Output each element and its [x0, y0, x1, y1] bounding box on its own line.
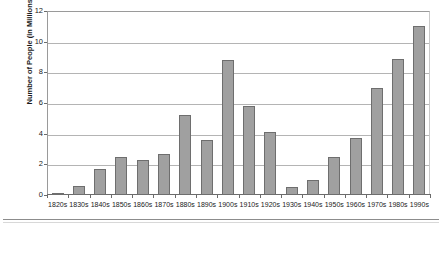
bar-1980s[interactable] [392, 59, 404, 195]
bar-1940s[interactable] [307, 180, 319, 195]
x-tick-mark [153, 194, 154, 198]
x-tick-label-1990s: 1990s [409, 201, 430, 208]
x-tick-mark [387, 194, 388, 198]
x-tick-label-1870s: 1870s [153, 201, 174, 208]
x-tick-mark [430, 194, 431, 198]
bar-slot [387, 11, 408, 195]
x-tick-label-1940s: 1940s [302, 201, 323, 208]
bar-1970s[interactable] [371, 88, 383, 195]
bar-slot [153, 11, 174, 195]
bar-1960s[interactable] [350, 138, 362, 195]
x-tick-mark [217, 194, 218, 198]
bar-slot [68, 11, 89, 195]
x-tick-mark [239, 194, 240, 198]
x-tick-mark [302, 194, 303, 198]
x-tick-mark [281, 194, 282, 198]
bars-layer [47, 11, 430, 195]
y-tick-label-4: 4 [23, 130, 43, 137]
x-tick-label-1880s: 1880s [175, 201, 196, 208]
bar-1890s[interactable] [201, 140, 213, 195]
x-tick-label-1960s: 1960s [345, 201, 366, 208]
x-tick-mark [366, 194, 367, 198]
bottom-divider [3, 219, 439, 223]
bar-slot [366, 11, 387, 195]
x-tick-label-1850s: 1850s [111, 201, 132, 208]
x-axis-ticks [47, 194, 430, 200]
x-tick-label-1950s: 1950s [324, 201, 345, 208]
x-tick-mark [324, 194, 325, 198]
x-tick-mark [409, 194, 410, 198]
x-tick-mark [345, 194, 346, 198]
bar-slot [90, 11, 111, 195]
bar-1880s[interactable] [179, 115, 191, 195]
x-tick-label-1900s: 1900s [217, 201, 238, 208]
bar-slot [281, 11, 302, 195]
x-tick-mark [260, 194, 261, 198]
bar-chart: 024681012 Number of People (in Millions)… [0, 0, 442, 254]
x-tick-label-1830s: 1830s [68, 201, 89, 208]
bar-slot [345, 11, 366, 195]
x-tick-mark [90, 194, 91, 198]
x-tick-label-1860s: 1860s [132, 201, 153, 208]
bar-slot [217, 11, 238, 195]
x-tick-mark [68, 194, 69, 198]
bar-slot [175, 11, 196, 195]
bar-1920s[interactable] [264, 132, 276, 195]
bar-1860s[interactable] [137, 160, 149, 195]
bar-slot [302, 11, 323, 195]
x-tick-mark [47, 194, 48, 198]
x-tick-label-1920s: 1920s [260, 201, 281, 208]
bar-slot [196, 11, 217, 195]
x-tick-label-1930s: 1930s [281, 201, 302, 208]
bar-1850s[interactable] [115, 157, 127, 195]
x-tick-mark [175, 194, 176, 198]
y-tick-label-0: 0 [23, 191, 43, 198]
x-axis-labels: 1820s1830s1840s1850s1860s1870s1880s1890s… [47, 201, 430, 213]
bar-slot [111, 11, 132, 195]
bar-slot [260, 11, 281, 195]
bar-slot [132, 11, 153, 195]
bar-1900s[interactable] [222, 60, 234, 195]
x-tick-label-1970s: 1970s [366, 201, 387, 208]
bar-1870s[interactable] [158, 154, 170, 195]
x-tick-label-1910s: 1910s [239, 201, 260, 208]
x-tick-label-1890s: 1890s [196, 201, 217, 208]
x-tick-mark [196, 194, 197, 198]
bar-slot [324, 11, 345, 195]
bar-slot [239, 11, 260, 195]
bar-slot [47, 11, 68, 195]
x-tick-mark [111, 194, 112, 198]
x-tick-label-1820s: 1820s [47, 201, 68, 208]
y-axis-title: Number of People (in Millions) [25, 0, 34, 131]
x-tick-label-1840s: 1840s [90, 201, 111, 208]
x-tick-mark [132, 194, 133, 198]
bar-slot [409, 11, 430, 195]
bar-1840s[interactable] [94, 169, 106, 195]
bar-1990s[interactable] [413, 26, 425, 195]
bar-1950s[interactable] [328, 157, 340, 195]
bar-1910s[interactable] [243, 106, 255, 195]
x-tick-label-1980s: 1980s [387, 201, 408, 208]
y-tick-label-2: 2 [23, 160, 43, 167]
